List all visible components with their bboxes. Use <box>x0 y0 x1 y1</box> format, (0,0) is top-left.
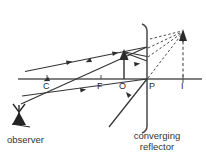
image-arrow <box>179 29 187 42</box>
axis-label-I: I <box>181 82 184 91</box>
reflector-caption-line-2: reflector <box>119 141 195 152</box>
arrowhead-center-ray-b <box>134 61 141 66</box>
observer-figure <box>12 104 30 127</box>
observer-base <box>12 112 26 125</box>
ray-reflected-lower <box>109 79 147 127</box>
arrowhead-lower-ray <box>124 90 131 98</box>
image-arrow-head <box>179 29 187 41</box>
virtual-ray-group <box>148 31 182 78</box>
reflector-caption-line-1: converging <box>119 130 195 141</box>
virtual-ray-2 <box>148 33 182 57</box>
virtual-ray-4 <box>150 31 182 39</box>
axis-label-F: F <box>97 82 103 91</box>
axis-label-C: C <box>43 82 50 91</box>
ray-diagram-canvas: C F O P I observer converging reflector <box>0 0 206 158</box>
virtual-ray-1 <box>148 34 182 78</box>
axis-label-P: P <box>149 82 155 91</box>
axis-label-O: O <box>119 82 126 91</box>
observer-caption: observer <box>7 134 44 145</box>
ray-incident-parallel <box>25 47 147 72</box>
